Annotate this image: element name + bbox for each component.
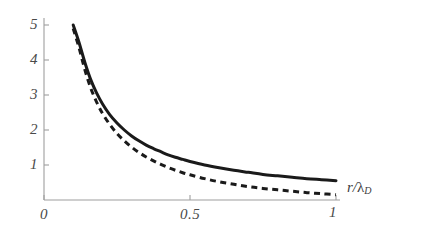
x-axis-title-subscript: D bbox=[364, 185, 371, 196]
plot-canvas bbox=[0, 0, 421, 238]
x-axis-tick-label-0-5: 0.5 bbox=[168, 207, 212, 222]
x-axis-title: r/λD bbox=[347, 180, 372, 196]
y-axis-tick-label-4: 4 bbox=[20, 52, 38, 67]
y-axis-tick-label-3: 3 bbox=[20, 87, 38, 102]
x-axis-tick-label-1: 1 bbox=[325, 205, 341, 220]
plot-background bbox=[0, 0, 421, 238]
x-axis-tick-label-0: 0 bbox=[36, 207, 52, 222]
y-axis-tick-label-5: 5 bbox=[20, 17, 38, 32]
chart-figure: 5 4 3 2 1 0 0.5 1 r/λD bbox=[0, 0, 421, 238]
y-axis-tick-label-2: 2 bbox=[20, 122, 38, 137]
y-axis-tick-label-1: 1 bbox=[20, 157, 38, 172]
